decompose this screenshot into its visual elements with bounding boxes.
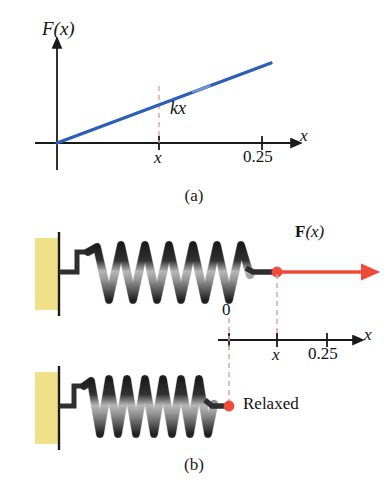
panel-a-caption: (a) bbox=[0, 186, 388, 206]
relaxed-spring-group bbox=[35, 366, 234, 450]
stretched-spring-group bbox=[35, 232, 363, 340]
panel-a-kx-label: kx bbox=[170, 98, 186, 119]
panel-b-force-label: F(x) bbox=[295, 222, 324, 242]
panel-b-x-axis-label: x bbox=[364, 325, 372, 345]
spring-anchor-lower bbox=[59, 386, 84, 406]
panel-a-y-axis-label: F(x) bbox=[42, 18, 75, 40]
panel-a-tick-label-x: x bbox=[154, 148, 162, 168]
spring-force-figure: F(x) kx x 0.25 x (a) bbox=[0, 0, 388, 497]
wall-block-lower bbox=[35, 372, 58, 444]
free-end-dot-relaxed bbox=[224, 401, 235, 412]
panel-b-force-label-arg: (x) bbox=[305, 222, 324, 241]
wall-block-upper bbox=[35, 238, 58, 310]
panel-a-tick-label-025: 0.25 bbox=[243, 147, 273, 167]
panel-b-tick-label-x: x bbox=[272, 345, 280, 365]
panel-a-force-line-highlight bbox=[193, 86, 210, 92]
panel-a-x-axis-label: x bbox=[300, 126, 308, 146]
spring-anchor-upper bbox=[59, 252, 88, 272]
panel-b-springs bbox=[0, 0, 388, 497]
panel-b-force-label-bold: F bbox=[295, 222, 305, 241]
panel-b-origin-label: 0 bbox=[222, 300, 231, 320]
panel-b-tick-label-025: 0.25 bbox=[308, 344, 338, 364]
panel-b-caption: (b) bbox=[0, 455, 388, 475]
spring-coils-lower-outline bbox=[84, 379, 214, 434]
spring-coils-upper-outline bbox=[88, 245, 250, 300]
panel-a-force-line bbox=[57, 63, 271, 143]
relaxed-label: Relaxed bbox=[243, 394, 299, 414]
